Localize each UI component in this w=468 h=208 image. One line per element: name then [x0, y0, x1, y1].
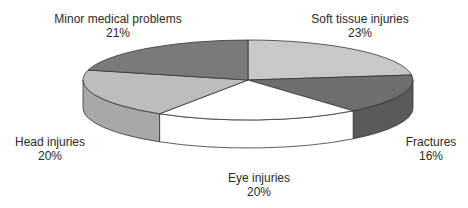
label-pct: 23% [300, 26, 420, 40]
label-pct: 20% [10, 149, 90, 163]
label-pct: 21% [48, 26, 188, 40]
label-name: Soft tissue injuries [300, 12, 420, 26]
label-eye-injuries: Eye injuries 20% [214, 171, 304, 199]
label-name: Head injuries [10, 135, 90, 149]
label-name: Fractures [396, 135, 466, 149]
label-head-injuries: Head injuries 20% [10, 135, 90, 163]
label-pct: 20% [214, 185, 304, 199]
label-name: Eye injuries [214, 171, 304, 185]
label-soft-tissue: Soft tissue injuries 23% [300, 12, 420, 40]
label-pct: 16% [396, 149, 466, 163]
pie-slice-0 [248, 40, 412, 80]
label-name: Minor medical problems [48, 12, 188, 26]
label-fractures: Fractures 16% [396, 135, 466, 163]
label-minor-medical: Minor medical problems 21% [48, 12, 188, 40]
